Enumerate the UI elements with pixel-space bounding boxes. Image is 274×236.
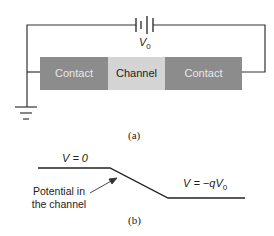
right-level-label-main: V = −qV bbox=[183, 177, 223, 189]
annotation-line-2: the channel bbox=[30, 198, 88, 211]
channel-label: Channel bbox=[108, 57, 165, 90]
caption-a: (a) bbox=[128, 129, 140, 141]
ground-icon bbox=[15, 107, 37, 119]
right-level-label: V = −qV0 bbox=[183, 177, 227, 192]
annotation-arrow bbox=[90, 178, 117, 193]
annotation-text: Potential in the channel bbox=[30, 185, 88, 211]
left-level-label: V = 0 bbox=[62, 152, 88, 164]
caption-b: (b) bbox=[128, 214, 141, 226]
right-contact-label: Contact bbox=[165, 57, 242, 90]
annotation-line-1: Potential in bbox=[30, 185, 88, 198]
battery-label-sub: 0 bbox=[146, 42, 150, 51]
battery-icon bbox=[136, 16, 153, 34]
left-contact-label: Contact bbox=[40, 57, 108, 90]
battery-label: V0 bbox=[139, 36, 151, 51]
right-level-label-sub: 0 bbox=[223, 183, 227, 192]
